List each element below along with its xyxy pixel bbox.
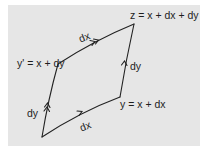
edge-label-right-dy: dy — [130, 60, 142, 72]
diagram-background — [8, 5, 200, 146]
vertex-label-y: y = x + dx — [120, 98, 166, 110]
vertex-label-y-prime: y' = x + dy — [17, 57, 65, 69]
vertex-label-z: z = x + dx + dy — [130, 9, 199, 21]
parallelogram-path-diagram: z = x + dx + dy y' = x + dy y = x + dx d… — [0, 0, 209, 151]
edge-label-left-dy: dy — [27, 107, 39, 119]
